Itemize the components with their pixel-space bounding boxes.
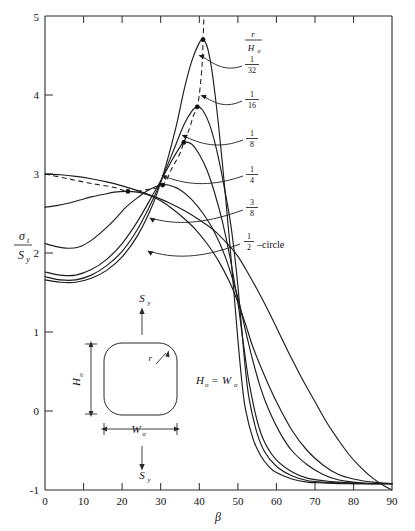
y-axis-denominator: S — [18, 248, 24, 262]
curve-label-denominator: 2 — [247, 243, 251, 252]
x-tick-label: 80 — [348, 495, 360, 507]
inset-equality-operator: = — [211, 374, 218, 386]
inset-equality-left: H — [195, 374, 205, 386]
inset-height-label: H — [70, 377, 82, 387]
peak-marker-dot — [195, 104, 200, 109]
inset-width-sub: o — [142, 430, 146, 438]
y-tick-label: 4 — [34, 89, 40, 101]
x-tick-label: 60 — [271, 495, 283, 507]
ratio-denominator-sub: o — [258, 48, 261, 54]
curve-label-denominator: 4 — [250, 176, 254, 185]
ratio-numerator: r — [251, 29, 255, 39]
inset-stress-bottom-label: S — [139, 469, 145, 481]
y-tick-label: 0 — [34, 405, 40, 417]
inset-height-sub: o — [77, 373, 85, 377]
curve-label-numerator: 1 — [250, 55, 254, 64]
x-tick-label: 20 — [117, 495, 129, 507]
x-tick-label: 40 — [194, 495, 206, 507]
y-tick-label: 3 — [34, 168, 40, 180]
stress-concentration-chart: 0 10 20 30 40 50 60 70 80 90 -1 0 1 2 3 … — [0, 0, 415, 531]
curve-label-numerator: 1 — [247, 232, 251, 241]
curve-label-numerator: 1 — [250, 165, 254, 174]
curve-label-numerator: 1 — [250, 129, 254, 138]
ratio-denominator: H — [247, 43, 255, 53]
x-tick-label: 10 — [78, 495, 90, 507]
y-tick-label: 1 — [34, 326, 40, 338]
x-tick-label: 70 — [310, 495, 322, 507]
curve-label-numerator: 1 — [250, 90, 254, 99]
peak-marker-dot — [201, 37, 206, 42]
inset-stress-top-label: S — [139, 292, 145, 304]
curve-label-numerator: 3 — [250, 198, 254, 207]
curve-label-suffix: –circle — [256, 239, 285, 250]
x-axis-label: β — [214, 510, 221, 524]
inset-equality-left-sub: o — [205, 381, 209, 389]
inset-equality-right: W — [222, 374, 232, 386]
y-tick-label: 2 — [34, 247, 40, 259]
x-tick-label: 30 — [155, 495, 167, 507]
inset-radius-label: r — [148, 353, 152, 363]
x-tick-label: 0 — [42, 495, 48, 507]
x-tick-label: 90 — [387, 495, 399, 507]
inset-equality-right-sub: o — [234, 381, 238, 389]
chart-background — [0, 0, 415, 531]
inset-width-label: W — [131, 423, 141, 435]
y-tick-label: -1 — [30, 484, 39, 496]
peak-marker-dot — [125, 189, 130, 194]
x-tick-label: 50 — [232, 495, 244, 507]
y-axis-denominator-sub: y — [25, 255, 30, 264]
peak-marker-dot — [181, 140, 186, 145]
chart-root: 0 10 20 30 40 50 60 70 80 90 -1 0 1 2 3 … — [0, 0, 415, 531]
curve-label-denominator: 32 — [248, 66, 256, 75]
peak-marker-dot — [160, 183, 165, 188]
curve-label-denominator: 16 — [248, 101, 256, 110]
y-tick-label: 5 — [34, 11, 40, 23]
curve-label-denominator: 8 — [250, 140, 254, 149]
curve-label-denominator: 8 — [250, 209, 254, 218]
